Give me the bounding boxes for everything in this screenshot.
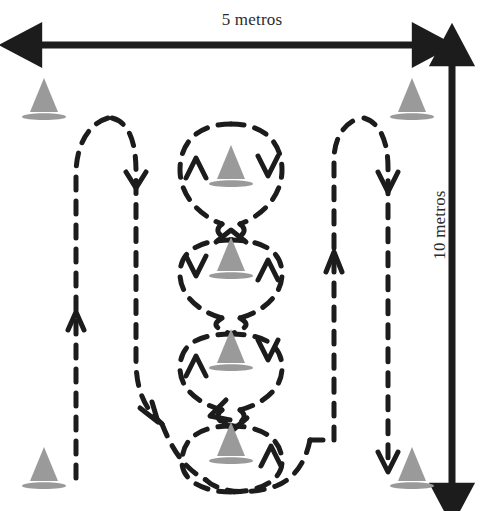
cone-corner-top-left (22, 78, 66, 120)
arrow-center-1-right-down (258, 156, 278, 176)
dimension-label-width: 5 metros (0, 10, 504, 30)
path-right-loop-right-branch (364, 118, 388, 460)
arrow-center-2-right-up (258, 260, 278, 280)
path-left-loop-left-branch (76, 118, 108, 478)
cone-corner-top-right (390, 78, 434, 120)
arrow-center-3-left-up (186, 356, 206, 376)
cone-corner-bottom-left (22, 447, 66, 489)
dimension-label-height: 10 metros (430, 190, 450, 259)
diagram-canvas (0, 0, 504, 511)
path-right-loop-left-branch (310, 118, 360, 440)
drill-diagram: 5 metros 10 metros (0, 0, 504, 511)
cone-center-1 (209, 145, 253, 187)
path-left-loop-right-branch (112, 118, 162, 424)
path-center-oval-2 (180, 240, 231, 318)
arrow-center-1-left-up (186, 158, 206, 178)
cone-center-4 (209, 422, 253, 464)
arrow-center-2-left-down (186, 256, 206, 276)
